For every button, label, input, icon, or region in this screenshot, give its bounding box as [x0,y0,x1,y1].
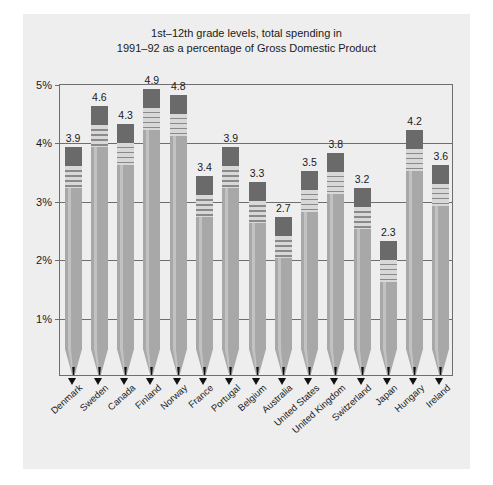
bar-pencil: 4.9 [143,89,160,375]
pencil-body [117,165,134,349]
ferrule-band [406,153,423,154]
ferrule-band [143,112,160,113]
ferrule-band [170,128,187,129]
bar-value-label: 3.4 [197,161,212,173]
ferrule-band [301,209,318,210]
pencil-body [170,136,187,349]
pencil-eraser [91,106,108,125]
pencil-eraser [380,241,397,260]
ferrule-band [354,221,371,222]
pencil-tip [275,349,292,375]
ferrule-band [117,152,134,153]
bar-value-label: 3.3 [250,167,265,179]
ferrule-band [354,216,371,217]
ferrule-band [196,214,213,215]
pencil-ferrule [117,143,134,165]
bar-value-label: 3.5 [302,156,317,168]
pencil-eraser [143,89,160,108]
pencil-body [327,194,344,349]
bar-pencil: 2.7 [275,217,292,375]
ferrule-band [380,269,397,270]
bar-value-label: 3.9 [223,132,238,144]
ferrule-band [196,199,213,200]
pencil-tip [327,349,344,375]
pencil-eraser [196,176,213,195]
chart-title: 1st–12th grade levels, total spending in… [23,26,470,56]
ferrule-band [196,204,213,205]
ferrule-band [65,170,82,171]
pencil-body [143,130,160,349]
ferrule-band [143,117,160,118]
bar-pencil: 3.9 [222,147,239,375]
ferrule-band [432,198,449,199]
y-axis-label: 2% [36,254,52,266]
pencil-tip [65,349,82,375]
pencil-eraser [222,147,239,166]
bar-pencil: 3.4 [196,176,213,375]
ferrule-band [117,162,134,163]
ferrule-band [91,144,108,145]
ferrule-band [117,147,134,148]
ferrule-band [143,127,160,128]
ferrule-band [432,188,449,189]
pencil-body [222,188,239,349]
pencil-body [406,171,423,349]
pencil-ferrule [432,184,449,206]
ferrule-band [249,220,266,221]
pencil-ferrule [65,166,82,188]
bar-pencil: 4.2 [406,130,423,375]
bar-pencil: 3.8 [327,153,344,375]
pencil-body [354,229,371,349]
ferrule-band [91,139,108,140]
bar-value-label: 4.2 [407,115,422,127]
bar-value-label: 4.6 [92,91,107,103]
ferrule-band [249,215,266,216]
pencil-body [196,217,213,349]
ferrule-band [222,180,239,181]
y-axis-label: 1% [36,313,52,325]
bar-pencil: 4.6 [91,106,108,375]
bar-pencil: 3.3 [249,182,266,375]
ferrule-band [301,199,318,200]
pencil-tip [143,349,160,375]
bar-value-label: 2.3 [381,226,396,238]
ferrule-band [406,158,423,159]
ferrule-band [65,175,82,176]
pencil-eraser [432,165,449,184]
bar-pencil: 4.8 [170,95,187,375]
pencil-eraser [301,171,318,190]
ferrule-band [327,181,344,182]
ferrule-band [380,279,397,280]
ferrule-band [222,170,239,171]
pencil-ferrule [222,166,239,188]
ferrule-band [406,168,423,169]
pencil-tip [249,349,266,375]
ferrule-band [249,205,266,206]
pencil-body [91,147,108,349]
ferrule-band [143,122,160,123]
pencil-body [380,282,397,349]
pencil-ferrule [380,260,397,282]
ferrule-band [275,240,292,241]
y-axis-label: 3% [36,196,52,208]
pencil-body [65,188,82,349]
ferrule-band [380,274,397,275]
y-axis-tick [55,143,60,144]
bar-pencil: 4.3 [117,124,134,375]
pencil-tip [406,349,423,375]
chart-page: 1st–12th grade levels, total spending in… [0,0,493,485]
pencil-eraser [65,147,82,166]
pencil-tip [222,349,239,375]
pencil-tip [196,349,213,375]
ferrule-band [275,250,292,251]
ferrule-band [196,209,213,210]
ferrule-band [222,175,239,176]
pencil-body [275,258,292,349]
ferrule-band [354,211,371,212]
y-axis-label: 4% [36,137,52,149]
ferrule-band [170,118,187,119]
pencil-body [432,206,449,349]
ferrule-band [275,245,292,246]
pencil-ferrule [170,114,187,136]
pencil-eraser [275,217,292,236]
